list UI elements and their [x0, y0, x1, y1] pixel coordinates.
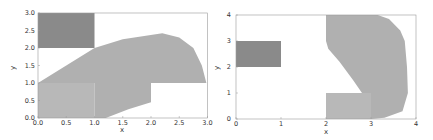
x-tick-label: 2.5: [174, 119, 184, 127]
obstacle-region: [38, 13, 95, 48]
y-tick-label: 2: [227, 63, 231, 71]
x-tick-label: 0.5: [61, 119, 71, 127]
left-chart: 0.00.51.01.52.02.53.0 0.00.51.01.52.02.5…: [9, 9, 213, 134]
right-y-ticks: 01234: [227, 11, 238, 123]
x-tick-label: 1.0: [89, 119, 99, 127]
left-x-axis-label: x: [120, 126, 124, 134]
y-tick-label: 0: [227, 115, 231, 123]
x-tick-label: 3: [369, 120, 373, 128]
left-plot-regions: [38, 13, 206, 118]
y-tick-label: 0.5: [25, 97, 35, 105]
x-tick-label: 1: [279, 120, 283, 128]
right-y-axis-label: y: [213, 66, 221, 70]
x-tick-label: 0: [234, 120, 238, 128]
y-tick-label: 4: [227, 11, 231, 19]
start-set-region: [326, 93, 371, 119]
figure: 0.00.51.01.52.02.53.0 0.00.51.01.52.02.5…: [0, 0, 433, 140]
x-tick-label: 2: [324, 120, 328, 128]
y-tick-label: 1.5: [25, 62, 35, 70]
y-tick-label: 3.0: [25, 9, 35, 17]
right-chart: 01234 01234 x y: [213, 11, 418, 136]
y-tick-label: 3: [227, 37, 231, 45]
right-x-axis-label: x: [324, 128, 328, 136]
start-set-region: [38, 83, 95, 118]
left-y-ticks: 0.00.51.01.52.02.53.0: [25, 9, 40, 122]
left-y-axis-label: y: [9, 66, 17, 70]
obstacle-region: [236, 41, 281, 67]
y-tick-label: 1: [227, 89, 231, 97]
x-tick-label: 3.0: [202, 119, 212, 127]
right-plot-regions: [236, 15, 408, 119]
x-tick-label: 2.0: [146, 119, 156, 127]
y-tick-label: 2.0: [25, 44, 35, 52]
right-x-ticks: 01234: [234, 117, 418, 128]
y-tick-label: 1.0: [25, 79, 35, 87]
y-tick-label: 2.5: [25, 27, 35, 35]
y-tick-label: 0.0: [25, 114, 35, 122]
x-tick-label: 4: [414, 120, 418, 128]
